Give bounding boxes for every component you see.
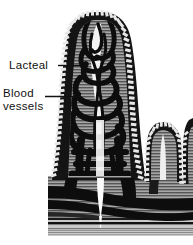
secondary-villus [144, 121, 184, 184]
label-lacteal: Lacteal [9, 60, 48, 72]
right-edge-villus [181, 118, 193, 186]
label-blood-vessels: Bloodvessels [3, 88, 43, 112]
label-blood-vessels-line2: vessels [3, 101, 43, 113]
label-blood-vessels-line1: Blood [3, 87, 34, 99]
lacteal-lower-lumen [96, 120, 104, 180]
villus-diagram: Lacteal Bloodvessels [0, 0, 193, 245]
main-villus [50, 10, 146, 180]
villus-illustration [0, 0, 193, 245]
